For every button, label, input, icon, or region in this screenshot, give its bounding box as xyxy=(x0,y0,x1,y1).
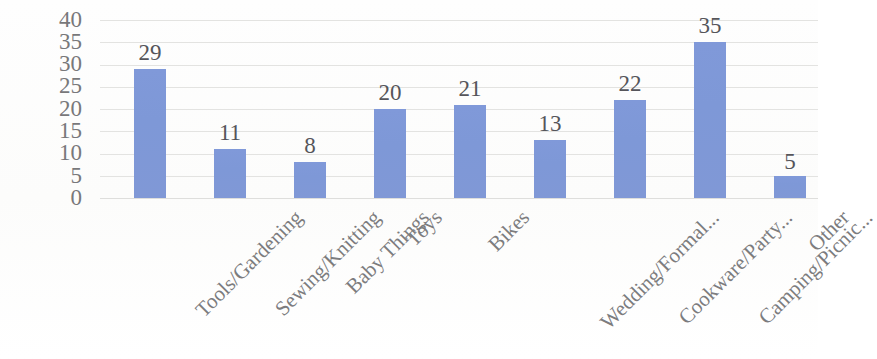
y-tick-label: 5 xyxy=(71,164,83,187)
bar-tools-gardening[interactable] xyxy=(134,69,166,198)
bar-value-label: 21 xyxy=(435,77,505,100)
bar-sewing-knitting[interactable] xyxy=(214,149,246,198)
y-tick-label: 25 xyxy=(59,74,82,97)
bar-value-label: 8 xyxy=(275,134,345,157)
bar-bikes[interactable] xyxy=(454,105,486,198)
bar-value-label: 20 xyxy=(355,81,425,104)
bar-other[interactable] xyxy=(774,176,806,198)
y-tick-label: 10 xyxy=(59,141,82,164)
bar-wedding-formal[interactable] xyxy=(534,140,566,198)
y-tick-label: 30 xyxy=(59,52,82,75)
bar-value-label: 22 xyxy=(595,72,665,95)
bar-toys[interactable] xyxy=(374,109,406,198)
bar-value-label: 5 xyxy=(755,150,825,173)
y-tick-label: 20 xyxy=(59,97,82,120)
bar-baby-things[interactable] xyxy=(294,162,326,198)
bar-cookware-party[interactable] xyxy=(614,100,646,198)
plot-area: 29 11 8 20 21 13 22 35 5 xyxy=(100,20,818,198)
bar-value-label: 29 xyxy=(115,41,185,64)
y-tick-label: 35 xyxy=(59,30,82,53)
y-tick-label: 15 xyxy=(59,119,82,142)
y-tick-label: 40 xyxy=(59,8,82,31)
bar-camping-picnic[interactable] xyxy=(694,42,726,198)
x-category-label-bikes: Bikes xyxy=(484,206,533,255)
bar-value-label: 13 xyxy=(515,112,585,135)
x-axis: Tools/Gardening Sewing/Knitting Baby Thi… xyxy=(0,198,818,359)
bar-value-label: 35 xyxy=(675,14,745,37)
bar-value-label: 11 xyxy=(195,121,265,144)
